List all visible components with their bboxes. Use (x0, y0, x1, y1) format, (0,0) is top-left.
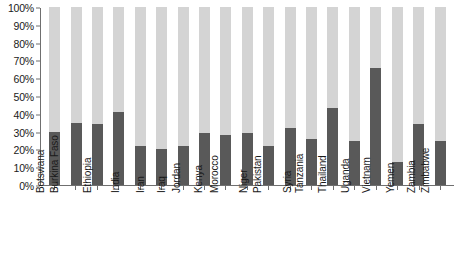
y-axis-tick-label: 40% (14, 110, 34, 121)
x-axis-tick-label: Syria (283, 171, 293, 193)
y-axis-tick-label: 0% (19, 181, 34, 192)
x-axis-tick-mark (333, 186, 334, 190)
y-axis-tick-label: 20% (14, 145, 34, 156)
bar-segment-remainder (349, 7, 360, 141)
bar-segment-remainder (327, 7, 338, 108)
x-axis-category: India (113, 186, 124, 276)
x-axis-tick-label: Yemen (386, 163, 396, 193)
x-axis-category: Zimbabwe (435, 186, 446, 276)
bar-column (135, 8, 146, 185)
x-axis-tick-label: Pakistan (254, 155, 264, 193)
bar-column (220, 8, 231, 185)
x-axis-category: Jordan (177, 186, 188, 276)
x-axis-category: Pakistan (263, 186, 274, 276)
bar-segment-remainder (263, 7, 274, 146)
bar-column (156, 8, 167, 185)
x-axis-tick-mark (97, 186, 98, 190)
bar-chart: 0%10%20%30%40%50%60%70%80%90%100% Botswa… (0, 0, 461, 276)
x-axis-tick-label: Thailand (318, 155, 328, 193)
x-axis-tick-mark (75, 186, 76, 190)
x-axis-tick-label: Uganda (341, 159, 351, 193)
x-axis-tick-label: Morocco (211, 155, 221, 193)
bar-column (263, 8, 274, 185)
bar-column (435, 8, 446, 185)
x-axis-category: Vietnam (370, 186, 381, 276)
bar-segment-remainder (71, 7, 82, 123)
x-axis-tick-mark (268, 186, 269, 190)
bar-segment-remainder (220, 7, 231, 135)
y-axis-tick-label: 60% (14, 74, 34, 85)
x-axis-tick-mark (354, 186, 355, 190)
bar-segment-remainder (306, 7, 317, 139)
x-axis-tick-label: Zimbabwe (422, 148, 432, 193)
bar-column (327, 8, 338, 185)
x-axis-tick-label: Kenya (194, 165, 204, 193)
x-axis-tick-label: Botswana (36, 150, 46, 193)
bar-column (392, 8, 403, 185)
x-axis-category: Uganda (349, 186, 360, 276)
y-axis-tick-label: 90% (14, 21, 34, 32)
x-axis-category: Yemen (392, 186, 403, 276)
bar-column (178, 8, 189, 185)
bar-segment-remainder (435, 7, 446, 141)
y-axis-tick-label: 30% (14, 127, 34, 138)
bar-segment-remainder (156, 7, 167, 149)
x-axis-tick-mark (440, 186, 441, 190)
bar-segment-remainder (285, 7, 296, 128)
bar-segment-remainder (370, 7, 381, 68)
y-axis-tick-label: 100% (8, 3, 34, 14)
plot-area (40, 8, 454, 186)
x-axis-category: Thailand (327, 186, 338, 276)
x-axis-category: Iran (134, 186, 145, 276)
bar-column (92, 8, 103, 185)
x-axis-category: Burkina Faso (70, 186, 81, 276)
bar-segment-value (306, 139, 317, 185)
bar-segment-remainder (242, 7, 253, 133)
y-axis-tick-label: 70% (14, 56, 34, 67)
bar-column (71, 8, 82, 185)
bar-segment-value (327, 108, 338, 185)
x-axis-tick-label: Zambia (406, 160, 416, 193)
bar-column (242, 8, 253, 185)
y-axis-tick-label: 50% (14, 92, 34, 103)
y-axis: 0%10%20%30%40%50%60%70%80%90%100% (0, 8, 40, 186)
x-axis-tick-mark (204, 186, 205, 190)
y-axis-tick-label: 10% (14, 163, 34, 174)
x-axis-category: Kenya (199, 186, 210, 276)
x-axis-category: Zambia (413, 186, 424, 276)
x-axis-tick-mark (183, 186, 184, 190)
bar-segment-remainder (135, 7, 146, 146)
x-axis-tick-label: Niger (239, 170, 249, 193)
bar-segment-value (263, 146, 274, 185)
x-axis-tick-label: Jordan (172, 163, 182, 193)
x-axis: BotswanaBurkina FasoEthiopiaIndiaIranIra… (40, 186, 454, 276)
bar-segment-value (92, 124, 103, 185)
bar-column (306, 8, 317, 185)
bar-segment-remainder (178, 7, 189, 146)
bar-segment-value (220, 135, 231, 185)
x-axis-tick-label: Vietnam (362, 157, 372, 193)
bar-column (113, 8, 124, 185)
x-axis-category: Botswana (48, 186, 59, 276)
x-axis-tick-mark (225, 186, 226, 190)
bar-segment-value (435, 141, 446, 186)
x-axis-tick-mark (311, 186, 312, 190)
x-axis-category: Niger (241, 186, 252, 276)
y-axis-tick-label: 80% (14, 38, 34, 49)
bar-series-container (41, 8, 454, 185)
bar-segment-remainder (392, 7, 403, 162)
bar-segment-value (71, 123, 82, 185)
bar-segment-remainder (49, 7, 60, 132)
x-axis-tick-label: Iraq (157, 176, 167, 193)
bar-segment-remainder (113, 7, 124, 112)
x-axis-category: Iraq (156, 186, 167, 276)
bar-segment-remainder (199, 7, 210, 133)
x-axis-category: Syria (284, 186, 295, 276)
x-axis-tick-mark (376, 186, 377, 190)
bar-segment-remainder (92, 7, 103, 124)
bar-segment-remainder (413, 7, 424, 124)
x-axis-tick-label: Burkina Faso (50, 135, 60, 193)
x-axis-tick-mark (397, 186, 398, 190)
x-axis-category: Morocco (220, 186, 231, 276)
x-axis-tick-label: Tanzania (296, 154, 306, 193)
